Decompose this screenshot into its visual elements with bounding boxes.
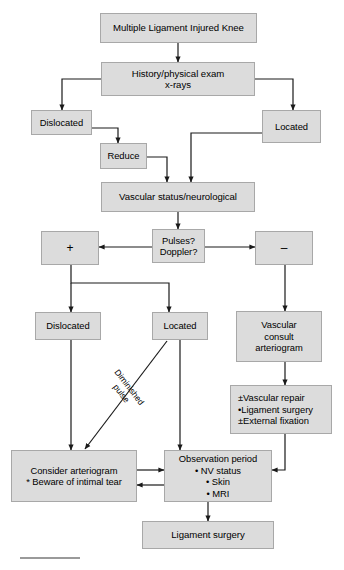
node-label: Dislocated bbox=[40, 117, 83, 129]
node-label-line2: •Ligament surgery bbox=[238, 404, 313, 416]
node-label-line3: • Skin bbox=[206, 476, 230, 488]
node-label-line1: History/physical exam bbox=[132, 68, 224, 80]
node-label: Located bbox=[275, 121, 308, 133]
node-label: – bbox=[281, 242, 288, 254]
node-label: Located bbox=[163, 320, 196, 332]
node-vascular-repair-plan[interactable]: ±Vascular repair •Ligament surgery ±Exte… bbox=[230, 385, 332, 434]
node-vascular-status-neurological[interactable]: Vascular status/neurological bbox=[101, 182, 255, 212]
node-label: Vascular status/neurological bbox=[119, 191, 237, 203]
node-located-top[interactable]: Located bbox=[262, 110, 321, 143]
node-label-line1: Pulses? bbox=[162, 235, 195, 247]
node-pulses-doppler[interactable]: Pulses? Doppler? bbox=[152, 229, 205, 263]
node-vascular-consult-arteriogram[interactable]: Vascular consult arteriogram bbox=[236, 311, 322, 362]
node-label-line2: • NV status bbox=[195, 465, 241, 477]
edge-history-to-dislocated bbox=[62, 79, 101, 110]
node-multiple-ligament-injured-knee[interactable]: Multiple Ligament Injured Knee bbox=[100, 13, 257, 43]
node-dislocated-top[interactable]: Dislocated bbox=[31, 110, 92, 135]
node-label-line2: Doppler? bbox=[160, 246, 198, 258]
node-label-line4: • MRI bbox=[207, 488, 230, 500]
node-label-line1: Observation period bbox=[179, 453, 257, 465]
node-pulses-negative[interactable]: – bbox=[255, 231, 313, 265]
edge-history-to-located bbox=[255, 79, 293, 110]
node-dislocated-mid[interactable]: Dislocated bbox=[35, 312, 101, 340]
node-consider-arteriogram[interactable]: Consider arteriogram * Beware of intimal… bbox=[11, 450, 137, 502]
node-label-line2: x-rays bbox=[165, 79, 191, 91]
node-label: Dislocated bbox=[46, 320, 89, 332]
node-label-line2: consult bbox=[264, 331, 293, 343]
node-label-line2: * Beware of intimal tear bbox=[26, 476, 122, 488]
node-label-line3: arteriogram bbox=[255, 342, 302, 354]
node-label-line1: ±Vascular repair bbox=[238, 392, 305, 404]
node-label-line1: Consider arteriogram bbox=[30, 465, 117, 477]
node-ligament-surgery[interactable]: Ligament surgery bbox=[142, 521, 274, 549]
node-label-line1: Vascular bbox=[261, 319, 296, 331]
node-located-mid[interactable]: Located bbox=[152, 312, 208, 340]
node-label: Multiple Ligament Injured Knee bbox=[113, 22, 244, 34]
node-label: Reduce bbox=[107, 150, 139, 162]
node-label: Ligament surgery bbox=[171, 529, 244, 541]
edge-positive-to-located-mid bbox=[71, 265, 169, 312]
node-observation-period[interactable]: Observation period • NV status • Skin • … bbox=[164, 450, 272, 502]
node-pulses-positive[interactable]: + bbox=[41, 231, 99, 265]
edge-repair-to-observation bbox=[272, 434, 285, 470]
flowchart-canvas: Multiple Ligament Injured Knee History/p… bbox=[0, 0, 344, 570]
edge-reduce-to-vascular-status bbox=[147, 157, 167, 182]
node-label-line3: ±External fixation bbox=[238, 415, 309, 427]
edge-dislocated-to-reduce bbox=[92, 128, 118, 143]
node-label: + bbox=[67, 242, 74, 254]
node-history-physical-exam[interactable]: History/physical exam x-rays bbox=[101, 62, 255, 96]
node-reduce[interactable]: Reduce bbox=[100, 143, 147, 169]
footer-rule bbox=[20, 557, 80, 559]
